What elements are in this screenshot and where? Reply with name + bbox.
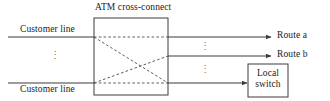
customer-line-top-label: Customer line xyxy=(20,25,75,35)
local-switch-label: Local switch xyxy=(248,68,288,89)
local-switch-label-line2: switch xyxy=(248,79,288,90)
ellipsis-inputs-icon: ... xyxy=(51,48,59,58)
route-a-label: Route a xyxy=(277,31,307,41)
route-b-label: Route b xyxy=(277,50,308,60)
xc-top-to-bottom xyxy=(94,37,168,83)
atm-cross-connect-title: ATM cross-connect xyxy=(95,3,171,13)
local-switch-label-line1: Local xyxy=(248,68,288,79)
atm-cross-connect-diagram: ATM cross-connect Customer line Customer… xyxy=(0,0,330,101)
customer-line-bottom-label: Customer line xyxy=(20,85,75,95)
ellipsis-outputs-lower-icon: ... xyxy=(201,62,209,72)
ellipsis-outputs-upper-icon: ... xyxy=(201,39,209,49)
